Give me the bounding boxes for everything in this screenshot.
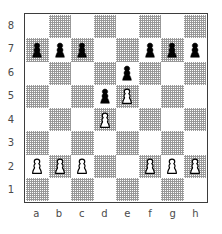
board-grid xyxy=(26,15,206,201)
square-c1 xyxy=(71,178,94,201)
white-pawn-icon xyxy=(163,157,182,176)
rank-label-1: 1 xyxy=(0,179,22,203)
black-pawn-icon xyxy=(118,64,137,83)
square-d3 xyxy=(94,131,117,154)
square-f3 xyxy=(139,131,162,154)
file-label-row: a b c d e f g h xyxy=(25,205,207,223)
black-pawn-icon xyxy=(140,40,159,59)
rank-label-3: 3 xyxy=(0,132,22,156)
white-pawn-icon xyxy=(95,110,114,129)
square-d5 xyxy=(94,85,117,108)
rank-label-4: 4 xyxy=(0,108,22,132)
chess-diagram: 8 7 6 5 4 3 2 1 a b c d e f g h xyxy=(0,0,222,234)
rank-label-6: 6 xyxy=(0,61,22,85)
square-h7 xyxy=(184,38,207,61)
file-label-g: g xyxy=(162,205,185,223)
square-d7 xyxy=(94,38,117,61)
square-f7 xyxy=(139,38,162,61)
square-e8 xyxy=(116,15,139,38)
square-c8 xyxy=(71,15,94,38)
square-h3 xyxy=(184,131,207,154)
square-f4 xyxy=(139,108,162,131)
black-pawn-icon xyxy=(28,40,47,59)
square-b4 xyxy=(49,108,72,131)
square-g8 xyxy=(161,15,184,38)
square-d1 xyxy=(94,178,117,201)
square-b8 xyxy=(49,15,72,38)
square-f1 xyxy=(139,178,162,201)
square-f6 xyxy=(139,62,162,85)
square-g4 xyxy=(161,108,184,131)
square-g6 xyxy=(161,62,184,85)
white-pawn-icon xyxy=(185,157,204,176)
square-a5 xyxy=(26,85,49,108)
file-label-h: h xyxy=(184,205,207,223)
square-g7 xyxy=(161,38,184,61)
square-a1 xyxy=(26,178,49,201)
square-b7 xyxy=(49,38,72,61)
square-g3 xyxy=(161,131,184,154)
square-f2 xyxy=(139,155,162,178)
rank-label-column: 8 7 6 5 4 3 2 1 xyxy=(0,14,22,202)
square-h5 xyxy=(184,85,207,108)
square-h2 xyxy=(184,155,207,178)
black-pawn-icon xyxy=(95,87,114,106)
square-a4 xyxy=(26,108,49,131)
rank-label-2: 2 xyxy=(0,155,22,179)
square-e3 xyxy=(116,131,139,154)
square-e1 xyxy=(116,178,139,201)
square-h4 xyxy=(184,108,207,131)
square-h6 xyxy=(184,62,207,85)
white-pawn-icon xyxy=(118,87,137,106)
square-d4 xyxy=(94,108,117,131)
square-d8 xyxy=(94,15,117,38)
file-label-e: e xyxy=(116,205,139,223)
square-a2 xyxy=(26,155,49,178)
square-b2 xyxy=(49,155,72,178)
rank-label-7: 7 xyxy=(0,38,22,62)
square-a8 xyxy=(26,15,49,38)
square-d2 xyxy=(94,155,117,178)
square-d6 xyxy=(94,62,117,85)
white-pawn-icon xyxy=(73,157,92,176)
black-pawn-icon xyxy=(73,40,92,59)
square-b6 xyxy=(49,62,72,85)
square-c4 xyxy=(71,108,94,131)
square-a3 xyxy=(26,131,49,154)
square-c2 xyxy=(71,155,94,178)
file-label-d: d xyxy=(93,205,116,223)
square-a6 xyxy=(26,62,49,85)
square-b5 xyxy=(49,85,72,108)
white-pawn-icon xyxy=(28,157,47,176)
black-pawn-icon xyxy=(163,40,182,59)
black-pawn-icon xyxy=(185,40,204,59)
rank-label-5: 5 xyxy=(0,85,22,109)
square-c3 xyxy=(71,131,94,154)
white-pawn-icon xyxy=(140,157,159,176)
square-h8 xyxy=(184,15,207,38)
rank-label-8: 8 xyxy=(0,14,22,38)
square-h1 xyxy=(184,178,207,201)
file-label-b: b xyxy=(48,205,71,223)
square-c6 xyxy=(71,62,94,85)
file-label-a: a xyxy=(25,205,48,223)
square-c7 xyxy=(71,38,94,61)
chess-board xyxy=(24,13,208,203)
square-g5 xyxy=(161,85,184,108)
square-f5 xyxy=(139,85,162,108)
square-e7 xyxy=(116,38,139,61)
square-g2 xyxy=(161,155,184,178)
white-pawn-icon xyxy=(50,157,69,176)
square-f8 xyxy=(139,15,162,38)
square-e6 xyxy=(116,62,139,85)
file-label-c: c xyxy=(71,205,94,223)
square-e2 xyxy=(116,155,139,178)
black-pawn-icon xyxy=(50,40,69,59)
square-g1 xyxy=(161,178,184,201)
square-a7 xyxy=(26,38,49,61)
square-b1 xyxy=(49,178,72,201)
square-e4 xyxy=(116,108,139,131)
square-e5 xyxy=(116,85,139,108)
square-b3 xyxy=(49,131,72,154)
file-label-f: f xyxy=(139,205,162,223)
